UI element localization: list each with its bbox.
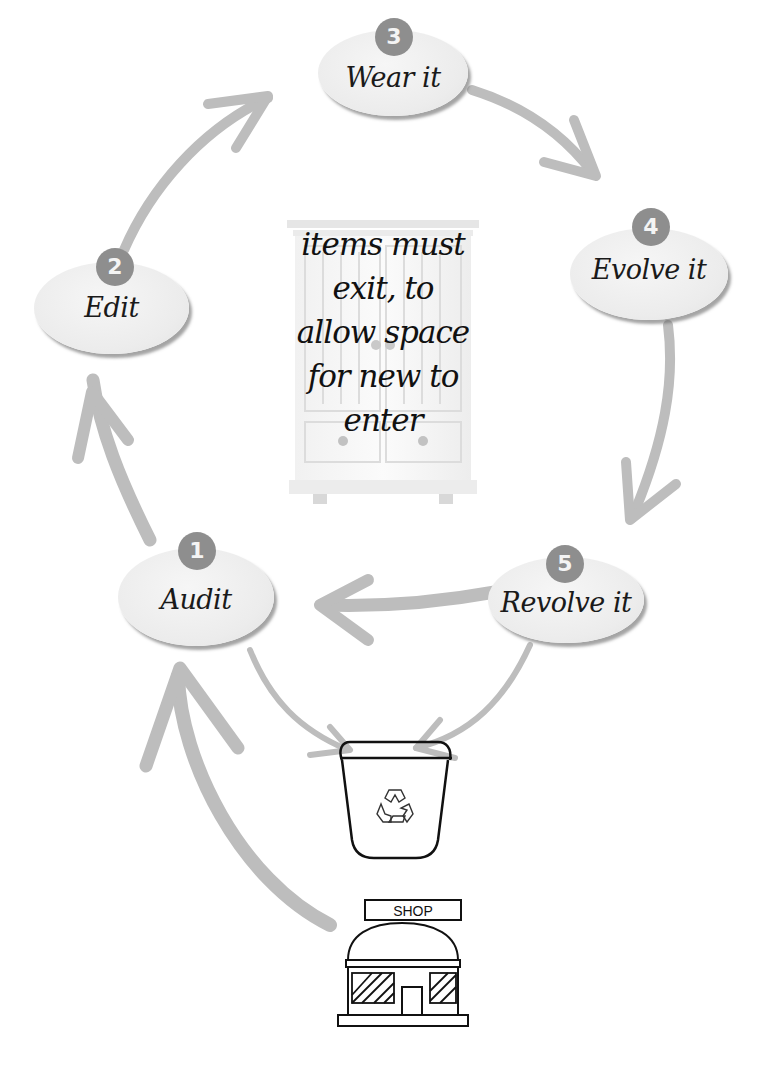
arrow-edit-to-wear [124,96,268,250]
center-message-line: enter [283,398,483,442]
center-message-line: for new to [283,354,483,398]
step-number-badge: 2 [96,248,134,286]
step-number-badge: 4 [632,208,670,246]
step-number-badge: 1 [178,532,216,570]
center-message-line: items must [283,222,483,266]
node-revolve-it: 5 Revolve it [488,545,648,645]
recycle-bin-icon [330,720,460,865]
arrow-revolve-to-audit [320,580,495,640]
node-label: Evolve it [570,254,728,285]
center-message-line: allow space [283,310,483,354]
node-audit: 1 Audit [118,532,278,650]
shop-sign-text: SHOP [365,903,461,919]
node-label: Wear it [318,62,468,93]
node-evolve-it: 4 Evolve it [570,208,732,324]
arrow-audit-to-edit [78,380,150,540]
node-wear-it: 3 Wear it [318,18,470,116]
arrow-evolve-to-revolve [626,325,676,520]
closet-cycle-diagram: items must exit, to allow space for new … [0,0,765,1070]
center-message-line: exit, to [283,266,483,310]
step-number-badge: 3 [375,18,413,56]
node-edit: 2 Edit [34,248,192,358]
node-label: Audit [118,584,274,615]
arrow-wear-to-evolve [472,90,596,176]
center-message: items must exit, to allow space for new … [283,222,483,442]
node-label: Edit [34,292,189,323]
node-label: Revolve it [488,587,644,618]
arrow-shop-to-audit [146,668,330,925]
step-number-badge: 5 [546,545,584,583]
